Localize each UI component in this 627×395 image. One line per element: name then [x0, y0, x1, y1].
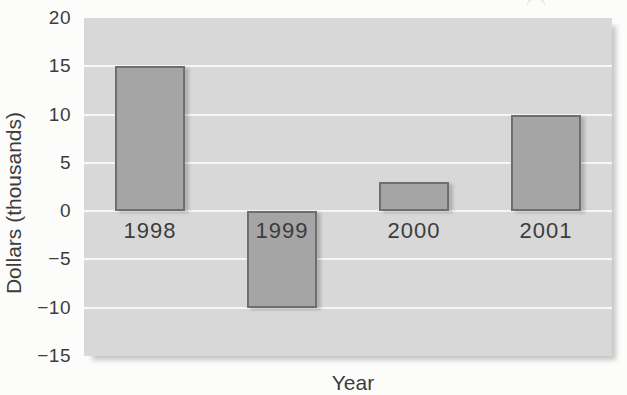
x-tick-label: 1998 — [84, 219, 216, 243]
plot-area: 1998199920002001 — [84, 18, 612, 356]
y-tick-label: −10 — [0, 297, 71, 319]
bar-2001 — [511, 115, 581, 212]
bar-chart-figure: Dollars (thousands) 20151050−5−10−15 199… — [0, 0, 627, 395]
y-tick-label: −15 — [0, 345, 71, 367]
y-tick-label: 15 — [0, 55, 71, 77]
scan-artifact — [527, 0, 545, 6]
y-tick-label: 0 — [0, 200, 71, 222]
x-tick-label: 1999 — [216, 219, 348, 243]
bar-2000 — [379, 182, 449, 211]
y-tick-label: −5 — [0, 248, 71, 270]
x-tick-label: 2000 — [348, 219, 480, 243]
x-axis-title: Year — [332, 371, 374, 395]
bar-1998 — [115, 66, 185, 211]
x-tick-label: 2001 — [480, 219, 612, 243]
gridline — [84, 258, 612, 260]
gridline — [84, 307, 612, 309]
y-tick-label: 5 — [0, 152, 71, 174]
y-tick-label: 10 — [0, 104, 71, 126]
y-tick-label: 20 — [0, 7, 71, 29]
